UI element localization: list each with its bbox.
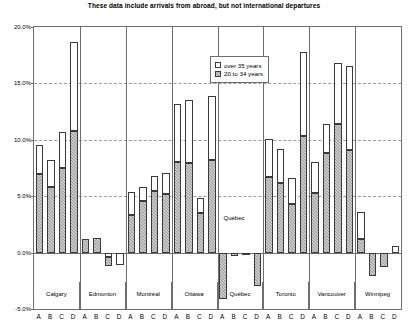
x-tick-label: A <box>34 313 44 320</box>
x-tick-label: D <box>160 313 170 320</box>
x-tick-label: B <box>275 313 285 320</box>
bar-segment-20-to-34 <box>36 174 44 253</box>
x-tick-label: B <box>137 313 147 320</box>
x-tick-label: A <box>125 313 135 320</box>
bar-segment-20-to-34 <box>128 215 136 252</box>
y-axis-tick-label: 20.0% <box>1 24 31 30</box>
bar-segment-20-to-34 <box>82 239 90 253</box>
city-group-label: Vancouver <box>309 291 354 297</box>
x-tick-label: B <box>366 313 376 320</box>
city-group-vancouver: Vancouver <box>308 282 354 310</box>
x-tick-label: C <box>240 313 250 320</box>
bar-segment-20-to-34 <box>357 239 365 253</box>
bar-segment-20-to-34 <box>369 253 377 277</box>
bar-segment-over-35 <box>36 145 44 173</box>
bar-segment-over-35 <box>392 246 400 253</box>
legend-item-20-to-34: 20 to 34 years <box>215 70 263 77</box>
bar-segment-20-to-34 <box>277 183 285 253</box>
bar-edmonton-c <box>105 253 113 267</box>
bar-segment-20-to-34 <box>162 194 170 253</box>
legend-swatch-icon <box>215 71 221 77</box>
bar-québec-b <box>231 253 239 256</box>
quebec-annotation: Québec <box>224 215 245 221</box>
bar-segment-20-to-34 <box>300 136 308 252</box>
bar-segment-20-to-34 <box>197 213 205 252</box>
group-separator <box>309 27 310 309</box>
x-tick-label: C <box>57 313 67 320</box>
city-group-winnipeg: Winnipeg <box>354 282 400 310</box>
bar-segment-20-to-34 <box>265 177 273 253</box>
bar-segment-20-to-34 <box>70 131 78 253</box>
x-tick-label: D <box>298 313 308 320</box>
bar-segment-20-to-34 <box>311 193 319 253</box>
x-tick-label: A <box>309 313 319 320</box>
bar-segment-over-35 <box>70 42 78 131</box>
bar-segment-20-to-34 <box>242 253 250 255</box>
city-group-montréal: Montréal <box>125 282 171 310</box>
bar-chart: These data include arrivals from abroad,… <box>0 0 408 334</box>
x-tick-label: C <box>286 313 296 320</box>
group-separator <box>355 27 356 309</box>
city-group-ottawa: Ottawa <box>171 282 217 310</box>
bar-toronto-b <box>277 149 285 253</box>
bar-ottawa-a <box>174 104 182 253</box>
bar-segment-20-to-34 <box>139 201 147 253</box>
bar-ottawa-c <box>197 198 205 252</box>
x-tick-label: A <box>263 313 273 320</box>
bar-calgary-c <box>59 132 67 253</box>
bar-ottawa-b <box>185 100 193 252</box>
bar-winnipeg-a <box>357 212 365 253</box>
x-tick-label: C <box>103 313 113 320</box>
bar-calgary-d <box>70 42 78 253</box>
bar-winnipeg-b <box>369 253 377 277</box>
y-axis-tick-label: -5.0% <box>1 306 31 312</box>
x-tick-label: B <box>91 313 101 320</box>
y-axis-tick-label: 0.0% <box>1 250 31 256</box>
x-tick-label: D <box>343 313 353 320</box>
bar-calgary-b <box>47 160 55 252</box>
bar-québec-c <box>242 253 250 255</box>
bar-segment-20-to-34 <box>346 150 354 253</box>
city-group-label: Toronto <box>263 291 308 297</box>
bar-segment-20-to-34 <box>174 162 182 252</box>
bar-segment-over-35 <box>277 149 285 183</box>
x-tick-label: C <box>194 313 204 320</box>
bar-segment-20-to-34 <box>185 163 193 252</box>
bar-segment-over-35 <box>116 253 124 265</box>
city-group-label: Ottawa <box>172 291 217 297</box>
city-group-label: Calgary <box>34 291 79 297</box>
bar-segment-over-35 <box>185 100 193 163</box>
bar-segment-over-35 <box>174 104 182 163</box>
bar-vancouver-a <box>311 162 319 252</box>
bar-vancouver-d <box>346 66 354 252</box>
legend-item-over-35: over 35 years <box>215 62 263 69</box>
bar-segment-over-35 <box>300 52 308 137</box>
bar-edmonton-a <box>82 239 90 253</box>
x-tick-label: C <box>148 313 158 320</box>
bar-segment-20-to-34 <box>105 257 113 266</box>
bar-segment-20-to-34 <box>93 238 101 253</box>
bar-montréal-a <box>128 192 136 253</box>
bar-segment-over-35 <box>197 198 205 213</box>
bar-vancouver-b <box>323 124 331 253</box>
bar-toronto-a <box>265 139 273 253</box>
x-tick-label: A <box>217 313 227 320</box>
x-tick-label: A <box>171 313 181 320</box>
bar-segment-20-to-34 <box>151 191 159 253</box>
bar-winnipeg-c <box>380 253 388 268</box>
legend-label: 20 to 34 years <box>224 70 263 77</box>
bar-montréal-c <box>151 176 159 253</box>
y-axis-tick-label: 10.0% <box>1 137 31 143</box>
y-axis-tick-label: 15.0% <box>1 80 31 86</box>
city-group-edmonton: Edmonton <box>79 282 125 310</box>
chart-title: These data include arrivals from abroad,… <box>0 2 408 9</box>
bar-segment-over-35 <box>162 173 170 194</box>
bar-segment-20-to-34 <box>231 253 239 256</box>
chart-legend: over 35 years 20 to 34 years <box>210 56 269 83</box>
x-tick-label: C <box>332 313 342 320</box>
city-group-toronto: Toronto <box>262 282 308 310</box>
plot-area: over 35 years 20 to 34 years Québec <box>33 26 402 310</box>
bar-segment-over-35 <box>357 212 365 239</box>
legend-swatch-icon <box>215 62 221 68</box>
bar-segment-over-35 <box>59 132 67 168</box>
